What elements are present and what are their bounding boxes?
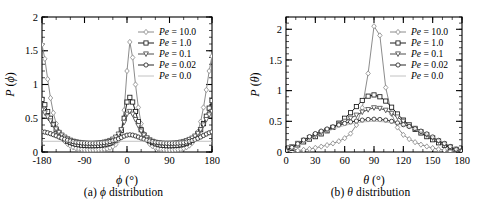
data-marker [396,41,400,45]
legend-label: Pe = 0.02 [158,59,196,70]
data-marker [128,95,132,99]
data-marker [396,63,400,67]
data-marker [383,108,388,113]
y-tick-label: 2 [33,12,38,23]
legend-item[interactable]: Pe = 0.1 [390,48,444,59]
data-marker [325,143,329,148]
legend-label: Pe = 0.02 [410,59,448,70]
data-marker [366,71,370,76]
data-marker [378,117,382,121]
legend-label: Pe = 10.0 [158,26,196,37]
y-tick-label: 0 [33,147,38,158]
data-marker [337,139,341,144]
data-marker [360,98,364,102]
figure-container: -180-9009018000.511.52ϕ (°)P (ϕ)Pe = 10.… [0,0,494,212]
data-marker [325,127,329,131]
data-marker [144,63,148,67]
data-marker [313,131,317,135]
legend-label: Pe = 0.0 [410,70,444,81]
data-marker [366,94,370,98]
legend-label: Pe = 1.0 [158,37,192,48]
y-tick-label: 1.5 [269,55,282,66]
x-tick-label: 150 [425,155,441,166]
data-marker [40,97,44,101]
data-marker [51,110,55,115]
data-marker [207,68,211,73]
legend: Pe = 10.0Pe = 1.0Pe = 0.1Pe = 0.02Pe = 0… [390,26,448,81]
data-marker [125,68,129,73]
x-tick-label: 180 [454,155,470,166]
data-marker [390,105,394,109]
panel-a-caption-symbol: ϕ [100,186,106,198]
series-pe-1.0 [284,93,464,154]
legend-item[interactable]: Pe = 0.0 [390,70,444,81]
x-axis-label: θ (°) [363,173,385,187]
plot-area: -180-9009018000.511.52ϕ (°)P (ϕ)Pe = 10.… [3,12,220,187]
phi-distribution-plot: -180-9009018000.511.52ϕ (°)P (ϕ)Pe = 10.… [0,0,247,212]
data-marker [384,85,388,90]
data-marker [210,99,214,103]
y-axis-label: P (ϕ) [3,72,17,98]
data-marker [201,105,205,110]
data-marker [43,56,47,61]
data-marker [425,144,429,149]
plot-area: 030609012015018000.511.52θ (°)P (θ)Pe = … [248,17,470,187]
legend-item[interactable]: Pe = 1.0 [390,37,444,48]
legend-label: Pe = 0.0 [158,70,192,81]
data-marker [144,41,148,45]
y-tick-label: 1.5 [25,45,38,56]
data-marker [48,95,52,100]
data-marker [130,55,134,60]
data-marker [430,145,434,150]
legend-label: Pe = 1.0 [410,37,444,48]
data-marker [413,140,417,145]
legend-label: Pe = 0.1 [410,48,444,59]
data-marker [204,87,208,92]
panel-b-caption-text: distribution [356,186,410,198]
x-axis-label: ϕ (°) [116,173,138,187]
y-tick-label: 0.5 [269,116,282,127]
x-tick-label: 60 [339,155,350,166]
y-tick-label: 2 [277,24,282,35]
data-marker [319,144,323,149]
x-tick-label: 0 [124,155,129,166]
series-line [286,108,462,151]
x-tick-label: 180 [204,155,220,166]
data-marker [331,141,335,146]
y-tick-label: 0.5 [25,113,38,124]
panel-a-caption-text: distribution [109,186,163,198]
x-tick-label: 0 [283,155,288,166]
legend-item[interactable]: Pe = 0.0 [138,70,192,81]
data-marker [348,111,352,115]
y-tick-label: 1 [33,79,38,90]
legend-item[interactable]: Pe = 0.1 [138,48,192,59]
legend-item[interactable]: Pe = 0.02 [390,59,448,70]
data-marker [45,76,49,81]
theta-distribution-plot: 030609012015018000.511.52θ (°)P (θ)Pe = … [247,0,494,212]
y-tick-label: 1 [277,85,282,96]
data-marker [125,100,129,104]
legend-item[interactable]: Pe = 10.0 [138,26,196,37]
data-marker [378,95,382,99]
legend-item[interactable]: Pe = 0.02 [138,59,196,70]
data-marker [210,130,214,134]
data-marker [396,29,400,34]
data-marker [130,112,135,117]
data-marker [407,136,411,141]
legend-item[interactable]: Pe = 10.0 [390,26,448,37]
panel-b-caption: (b) θ distribution [247,186,494,198]
x-tick-label: 120 [395,155,411,166]
legend-label: Pe = 0.1 [158,48,192,59]
legend-item[interactable]: Pe = 1.0 [138,37,192,48]
x-tick-label: -90 [78,155,92,166]
data-marker [319,129,323,133]
y-tick-label: 0 [277,147,282,158]
panel-a-caption: (a) ϕ distribution [0,186,247,198]
data-marker [384,99,388,103]
data-marker [419,142,423,147]
data-marker [128,39,132,44]
x-tick-label: 30 [310,155,321,166]
series-line [286,95,462,151]
panel-theta-distribution: 030609012015018000.511.52θ (°)P (θ)Pe = … [247,0,494,212]
data-marker [144,29,148,34]
